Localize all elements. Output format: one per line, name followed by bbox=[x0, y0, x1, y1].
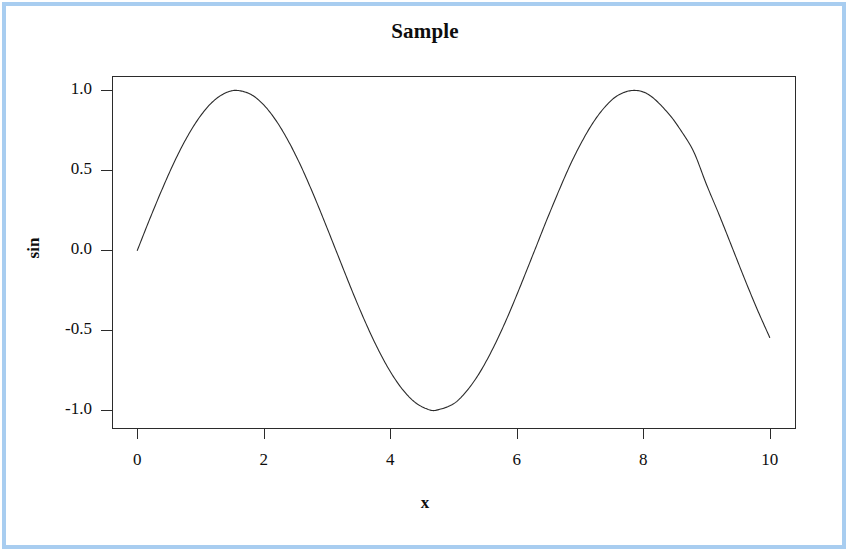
series-line-sin bbox=[137, 90, 769, 410]
y-tick-label: -1.0 bbox=[32, 399, 92, 419]
y-axis-title: sin bbox=[24, 228, 44, 268]
x-tick-label: 0 bbox=[117, 450, 157, 470]
axis-box bbox=[113, 77, 796, 429]
x-axis-title: x bbox=[0, 493, 850, 513]
plot-canvas bbox=[0, 0, 850, 553]
x-axis-tick-marks bbox=[138, 428, 771, 439]
x-tick-label: 4 bbox=[370, 450, 410, 470]
x-tick-label: 6 bbox=[497, 450, 537, 470]
x-tick-label: 10 bbox=[750, 450, 790, 470]
x-tick-label: 2 bbox=[244, 450, 284, 470]
y-tick-label: 0.5 bbox=[32, 159, 92, 179]
x-tick-label: 8 bbox=[623, 450, 663, 470]
figure-root: Sample 1.00.50.0-0.5-1.0 0246810 x sin bbox=[0, 0, 850, 553]
y-tick-label: -0.5 bbox=[32, 319, 92, 339]
y-axis-tick-marks bbox=[101, 91, 112, 411]
y-tick-label: 1.0 bbox=[32, 79, 92, 99]
